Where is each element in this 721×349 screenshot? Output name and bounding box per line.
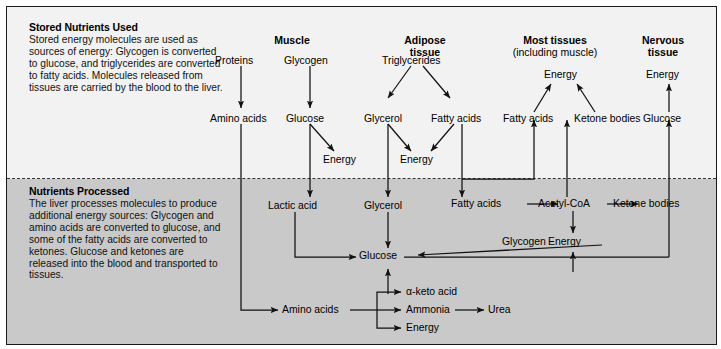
node-amino-acids-liver: Amino acids xyxy=(282,304,339,315)
node-urea: Urea xyxy=(488,304,511,315)
node-energy-from-lipids: Energy xyxy=(400,154,433,165)
node-triglycerides: Triglycerides xyxy=(382,55,441,66)
node-fatty-acids-tissue: Fatty acids xyxy=(503,113,553,124)
node-lactic-acid: Lactic acid xyxy=(268,200,317,211)
node-fatty-acids-adipose: Fatty acids xyxy=(431,113,481,124)
node-glucose-nervous: Glucose xyxy=(643,113,681,124)
node-ammonia: Ammonia xyxy=(406,304,450,315)
node-proteins: Proteins xyxy=(215,55,253,66)
node-glucose-muscle: Glucose xyxy=(286,113,324,124)
node-energy-most-tissues: Energy xyxy=(544,69,577,80)
arrow-layer xyxy=(7,7,716,344)
node-alpha-keto-acid: α-keto acid xyxy=(406,286,457,297)
node-ketone-bodies-liver: Ketone bodies xyxy=(613,198,679,209)
node-energy-from-glucose-muscle: Energy xyxy=(323,154,356,165)
node-amino-acids-blood: Amino acids xyxy=(210,113,267,124)
node-glycogen-muscle: Glycogen xyxy=(284,55,328,66)
node-energy-nervous: Energy xyxy=(646,69,679,80)
node-glycogen-liver: Glycogen xyxy=(502,236,546,247)
node-energy-liver: Energy xyxy=(548,236,581,247)
node-glycerol-liver: Glycerol xyxy=(364,200,402,211)
diagram-frame: Stored Nutrients Used Stored energy mole… xyxy=(6,6,717,345)
node-acetyl-coa: Acetyl-CoA xyxy=(538,198,590,209)
diagram-canvas: Stored Nutrients Used Stored energy mole… xyxy=(0,0,721,349)
node-glucose-liver: Glucose xyxy=(359,250,397,261)
node-glycerol-blood: Glycerol xyxy=(364,113,402,124)
node-fatty-acids-liver: Fatty acids xyxy=(451,198,501,209)
node-ketone-bodies-tissue: Ketone bodies xyxy=(574,113,640,124)
node-energy-from-amino-acids: Energy xyxy=(406,322,439,333)
